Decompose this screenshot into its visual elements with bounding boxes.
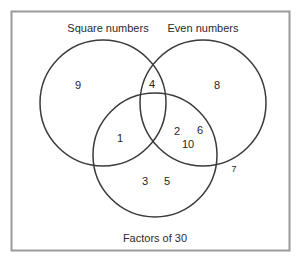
venn-diagram-page: Square numbers Even numbers Factors of 3… <box>0 0 301 262</box>
venn-diagram-canvas: Square numbers Even numbers Factors of 3… <box>0 0 301 262</box>
region-even-only-value-8: 8 <box>214 79 220 91</box>
set-label-factors-of-30: Factors of 30 <box>123 232 187 244</box>
region-factors-only-value-5: 5 <box>164 175 170 187</box>
region-square-factors-value-1: 1 <box>117 132 123 144</box>
circle-factors-of-30 <box>93 93 217 217</box>
region-factors-only-value-3: 3 <box>142 175 148 187</box>
region-even-factors-value-2: 2 <box>174 125 180 137</box>
set-label-even-numbers: Even numbers <box>168 22 239 34</box>
region-even-factors-value-10: 10 <box>182 138 194 150</box>
circle-square-numbers <box>40 40 166 166</box>
set-label-square-numbers: Square numbers <box>67 22 149 34</box>
region-square-only-value-9: 9 <box>75 79 81 91</box>
region-outside-all-value-7: 7 <box>231 164 236 174</box>
universal-set-rectangle <box>12 12 290 251</box>
circle-even-numbers <box>140 40 266 166</box>
region-even-factors-value-6: 6 <box>197 124 203 136</box>
region-square-even-value-4: 4 <box>149 78 155 90</box>
